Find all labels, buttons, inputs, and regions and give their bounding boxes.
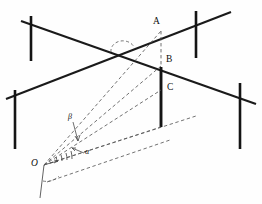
label-point-a: A (153, 17, 160, 27)
angle-arc-depression (43, 176, 59, 181)
label-angle-alpha: α (85, 148, 89, 156)
diagram-svg (0, 0, 262, 204)
angle-tick-2 (61, 155, 62, 161)
angle-tick-3 (66, 153, 67, 160)
angle-tick-4 (71, 151, 72, 159)
label-point-o: O (31, 159, 38, 169)
main-line-descending (21, 21, 256, 104)
ray-o-to-c (44, 90, 161, 165)
label-angle-beta: β (68, 113, 72, 121)
label-point-b: B (166, 55, 172, 65)
label-point-c: C (167, 83, 173, 93)
figure-canvas: A B C O β α (0, 0, 262, 204)
ray-o-to-b (44, 66, 161, 165)
alpha-leader-line (72, 148, 84, 153)
ground-reference-ray-lower (47, 140, 170, 182)
ray-o-to-a (44, 31, 161, 165)
